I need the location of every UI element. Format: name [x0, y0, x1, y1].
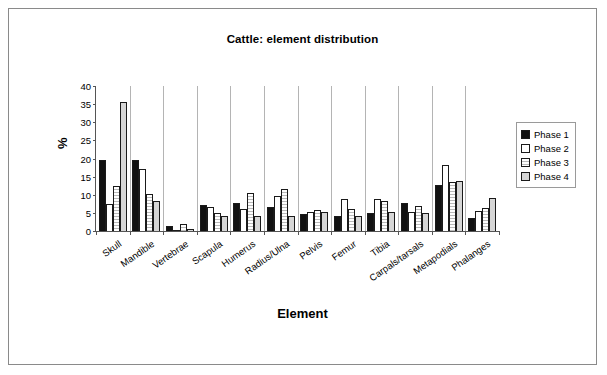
bar [475, 211, 482, 231]
bar [300, 214, 307, 231]
x-tick-mark [365, 231, 366, 235]
bar-group [130, 86, 164, 231]
bar [381, 201, 388, 231]
bar [247, 193, 254, 231]
bar [367, 213, 374, 231]
x-category-label: Pelvis [298, 238, 325, 262]
legend-item: Phase 2 [521, 141, 569, 155]
bar [146, 194, 153, 231]
y-tick-label: 40 [80, 81, 91, 92]
legend-label: Phase 3 [534, 157, 569, 168]
bar [221, 216, 228, 231]
bar [415, 206, 422, 231]
bar [214, 213, 221, 231]
bar [288, 216, 295, 231]
x-tick-mark [264, 231, 265, 235]
bar [334, 216, 341, 231]
bar-group [398, 86, 432, 231]
bar-group [298, 86, 332, 231]
chart-title: Cattle: element distribution [9, 33, 596, 45]
bar [233, 203, 240, 231]
legend-swatch [521, 172, 530, 181]
x-tick-mark [298, 231, 299, 235]
y-tick-label: 20 [80, 153, 91, 164]
x-tick-mark [499, 231, 500, 235]
x-category-label: Scapula [189, 238, 223, 267]
bar [408, 212, 415, 231]
bar-group [96, 86, 130, 231]
x-tick-mark [197, 231, 198, 235]
y-tick-label: 15 [80, 171, 91, 182]
y-axis-label: % [55, 137, 70, 149]
y-tick-label: 0 [86, 226, 91, 237]
bar-group [163, 86, 197, 231]
bar [267, 207, 274, 231]
x-category-label: Femur [329, 238, 358, 263]
bar [442, 165, 449, 231]
bar [240, 209, 247, 231]
y-tick-label: 25 [80, 135, 91, 146]
legend-item: Phase 4 [521, 169, 569, 183]
x-tick-mark [130, 231, 131, 235]
legend-swatch [521, 158, 530, 167]
legend-label: Phase 4 [534, 171, 569, 182]
bar [449, 182, 456, 231]
bar [153, 201, 160, 231]
bar [355, 216, 362, 231]
y-tick-label: 5 [86, 207, 91, 218]
bar [106, 204, 113, 231]
bar [180, 224, 187, 231]
bar [348, 209, 355, 231]
bar [173, 230, 180, 231]
bar-group [230, 86, 264, 231]
legend-item: Phase 1 [521, 127, 569, 141]
bar [422, 213, 429, 231]
bar-group [331, 86, 365, 231]
y-tick-label: 30 [80, 117, 91, 128]
bar [120, 102, 127, 231]
x-tick-mark [331, 231, 332, 235]
legend-item: Phase 3 [521, 155, 569, 169]
x-category-label: Tibia [369, 238, 392, 259]
x-category-label: Mandible [119, 238, 157, 269]
bar [254, 216, 261, 231]
bar [113, 186, 120, 231]
figure-frame: Cattle: element distribution % 051015202… [8, 8, 597, 365]
bar-group [465, 86, 499, 231]
x-tick-mark [96, 231, 97, 235]
bar [132, 160, 139, 231]
bar-group [197, 86, 231, 231]
x-tick-mark [163, 231, 164, 235]
legend-swatch [521, 144, 530, 153]
bar [139, 169, 146, 231]
x-axis-label: Element [9, 306, 596, 321]
bar [274, 196, 281, 231]
bar [307, 212, 314, 231]
legend-label: Phase 2 [534, 143, 569, 154]
bar [321, 212, 328, 231]
bar [187, 229, 194, 231]
bar [374, 199, 381, 231]
bar-group [264, 86, 298, 231]
bar [99, 160, 106, 231]
x-tick-mark [465, 231, 466, 235]
x-category-label: Skull [100, 238, 123, 259]
y-tick-label: 10 [80, 189, 91, 200]
x-tick-mark [230, 231, 231, 235]
chart-legend: Phase 1Phase 2Phase 3Phase 4 [516, 122, 576, 188]
x-category-label: Vertebrae [150, 238, 190, 271]
x-tick-mark [398, 231, 399, 235]
bar [207, 207, 214, 231]
bar [166, 226, 173, 231]
bar [388, 212, 395, 231]
bar [456, 181, 463, 231]
bar [341, 199, 348, 231]
bar-group [365, 86, 399, 231]
plot-area: 0510152025303540SkullMandibleVertebraeSc… [95, 86, 499, 232]
bar [435, 185, 442, 231]
bar [482, 208, 489, 231]
x-tick-mark [432, 231, 433, 235]
bar [489, 198, 496, 231]
bar [314, 210, 321, 231]
bar-group [432, 86, 466, 231]
